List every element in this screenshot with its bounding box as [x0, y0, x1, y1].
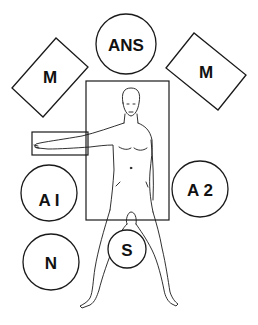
- assistant-2: A 2: [172, 161, 228, 217]
- nurse-label: N: [45, 254, 57, 273]
- operating-room-layout-diagram: M ANS M A I: [0, 0, 258, 325]
- anesthesia-label: ANS: [108, 36, 144, 55]
- monitor-right-label: M: [199, 63, 213, 82]
- surgeon-label: S: [121, 241, 132, 260]
- surgeon: S: [108, 230, 146, 268]
- assistant-1: A I: [21, 165, 77, 221]
- monitor-left-label: M: [43, 68, 57, 87]
- monitor-left: M: [12, 38, 88, 117]
- monitor-right: M: [166, 33, 246, 110]
- nurse: N: [23, 234, 79, 290]
- anesthesia-station: ANS: [96, 14, 156, 74]
- arm-board: [32, 132, 88, 155]
- assistant-1-label: A I: [38, 191, 59, 210]
- operating-table: [86, 81, 169, 220]
- assistant-2-label: A 2: [187, 181, 213, 200]
